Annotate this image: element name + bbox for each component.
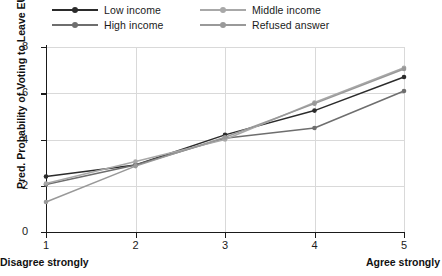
- data-point: [402, 89, 407, 94]
- data-point: [312, 108, 317, 113]
- series-line-low-income: [46, 77, 404, 176]
- data-point: [44, 181, 49, 186]
- series-line-middle-income: [46, 68, 404, 184]
- data-point: [402, 75, 407, 80]
- data-point: [44, 200, 49, 205]
- data-point: [312, 101, 317, 106]
- data-point: [223, 135, 228, 140]
- series-middle-income: [44, 66, 407, 186]
- series-low-income: [44, 75, 407, 179]
- data-point: [44, 174, 49, 179]
- data-point: [133, 159, 138, 164]
- data-point: [402, 67, 407, 72]
- data-point: [312, 126, 317, 131]
- data-point: [133, 164, 138, 169]
- chart-figure: Low income Middle income High income Ref…: [0, 0, 442, 276]
- series-layer: [0, 0, 442, 276]
